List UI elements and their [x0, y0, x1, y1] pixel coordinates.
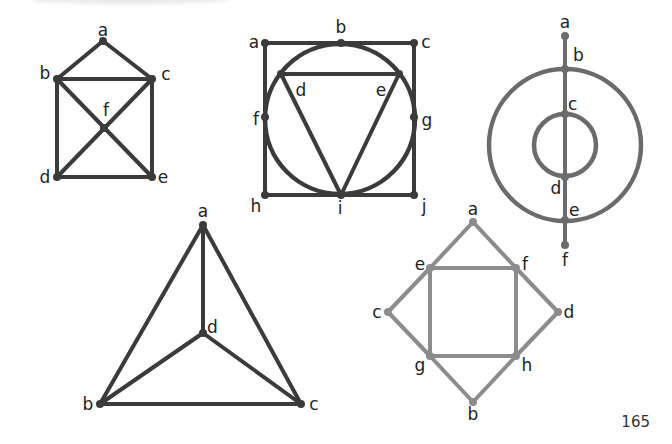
vertex-a [199, 221, 207, 229]
vertex-c [148, 75, 156, 83]
vertex-label-c: c [372, 302, 381, 322]
vertex-label-b: b [336, 17, 347, 37]
edge-a-b [57, 41, 103, 79]
vertex-h [512, 352, 520, 360]
vertex-label-g: g [422, 110, 433, 130]
vertex-d [561, 173, 569, 181]
edge-d-h [516, 312, 558, 356]
vertex-label-h: h [522, 355, 533, 375]
vertex-label-i: i [338, 198, 343, 218]
vertex-label-e: e [415, 254, 425, 274]
vertex-f [561, 241, 569, 249]
edge-b-d [100, 333, 203, 404]
vertex-h [261, 191, 269, 199]
edge-a-f [473, 222, 516, 268]
edge-a-c [203, 225, 301, 404]
vertex-e [148, 173, 156, 181]
vertex-label-b: b [573, 45, 584, 65]
edge-c-d [203, 333, 301, 404]
vertex-label-b: b [83, 394, 94, 414]
vertex-label-a: a [98, 20, 108, 40]
vertex-e [561, 216, 569, 224]
vertex-label-d: d [296, 80, 307, 100]
vertex-label-a: a [560, 12, 570, 32]
vertex-label-e: e [158, 167, 168, 187]
vertex-a [561, 32, 569, 40]
vertex-label-f: f [103, 100, 110, 120]
edge-a-c [103, 41, 152, 79]
vertex-label-j: j [421, 196, 427, 216]
circle-shape [265, 44, 415, 194]
vertex-f [100, 124, 108, 132]
vertex-b [53, 75, 61, 83]
vertex-label-d: d [551, 178, 562, 198]
vertex-label-f: f [522, 254, 529, 274]
vertex-d [199, 329, 207, 337]
page-number: 165 [621, 413, 650, 431]
vertex-g [426, 352, 434, 360]
graph-square-circle-triangle: abcdefghij [249, 17, 433, 218]
vertex-label-d: d [564, 302, 575, 322]
vertex-b [96, 400, 104, 408]
vertex-e [426, 264, 434, 272]
vertex-e [395, 70, 403, 78]
edge-a-b [100, 225, 203, 404]
vertex-f [512, 264, 520, 272]
vertex-label-a: a [249, 32, 259, 52]
vertex-f [261, 113, 269, 121]
vertex-b [561, 65, 569, 73]
vertex-label-e: e [376, 80, 386, 100]
edge-f-d [516, 268, 558, 312]
vertex-label-f: f [562, 250, 569, 270]
vertex-c [410, 39, 418, 47]
vertex-d [53, 173, 61, 181]
graph-diagrams-canvas: abcfdeabcdefghijabcdefadbcaefcdghb [0, 0, 672, 444]
vertex-label-b: b [40, 63, 51, 83]
edge-c-g [388, 312, 430, 356]
vertex-label-a: a [468, 199, 478, 219]
edge-a-e [430, 222, 473, 268]
vertex-d [554, 308, 562, 316]
graph-triangle-center: adbc [83, 201, 319, 414]
vertex-label-c: c [309, 394, 318, 414]
vertex-c [297, 400, 305, 408]
vertex-label-a: a [198, 201, 208, 221]
vertex-a [469, 218, 477, 226]
vertex-label-g: g [415, 355, 426, 375]
vertex-label-d: d [207, 317, 218, 337]
graph-concentric-circles: abcdef [489, 12, 641, 270]
edge-e-c [388, 268, 430, 312]
vertex-label-d: d [40, 167, 51, 187]
edge-g-b [430, 356, 473, 402]
graph-house: abcfde [40, 20, 171, 187]
vertex-c [384, 308, 392, 316]
vertex-label-e: e [569, 200, 579, 220]
graph-diamond-square: aefcdghb [372, 199, 574, 424]
vertex-label-c: c [161, 64, 170, 84]
vertex-label-h: h [251, 196, 262, 216]
vertex-label-c: c [568, 94, 577, 114]
vertex-d [277, 70, 285, 78]
vertex-b [337, 39, 345, 47]
vertex-a [261, 39, 269, 47]
vertex-g [410, 113, 418, 121]
vertex-label-f: f [253, 109, 260, 129]
edge-h-b [473, 356, 516, 402]
vertex-label-c: c [421, 32, 430, 52]
vertex-label-b: b [468, 404, 479, 424]
vertex-j [410, 191, 418, 199]
